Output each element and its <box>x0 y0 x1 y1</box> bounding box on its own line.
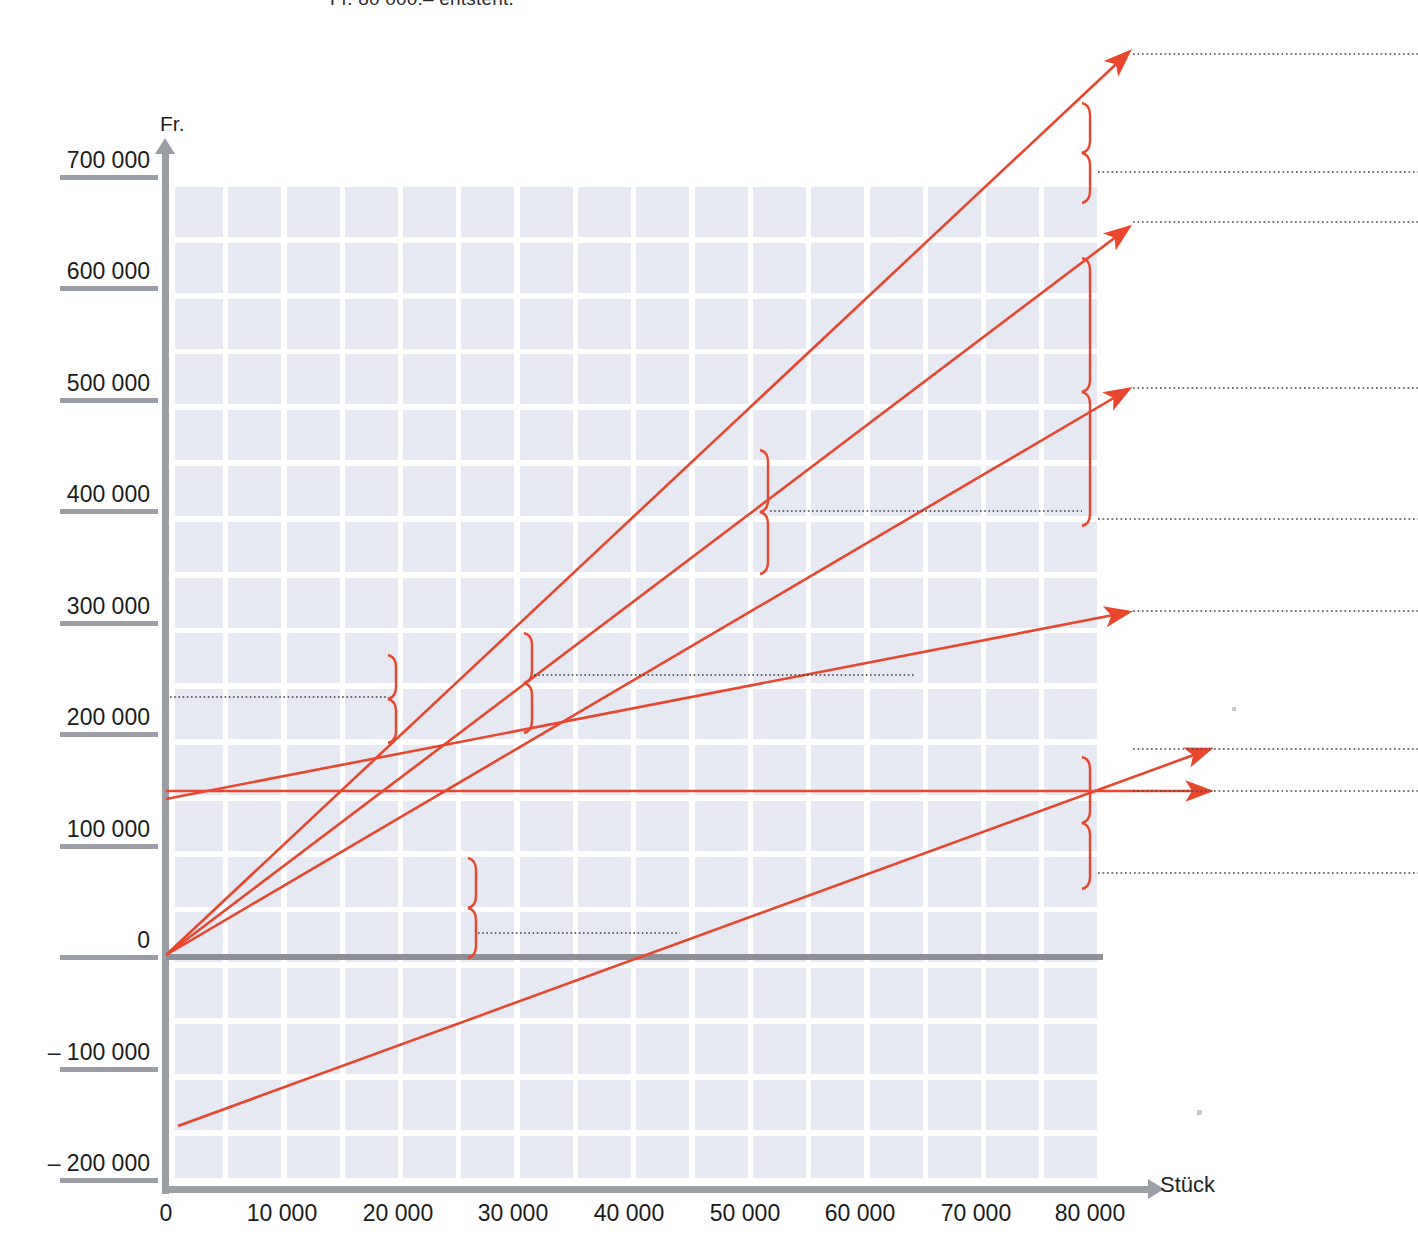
brace-30000 <box>524 633 532 733</box>
brace-right-middle <box>1082 258 1090 526</box>
series-line-gewinn <box>178 749 1210 1126</box>
brace-26000 <box>468 858 476 958</box>
scan-speck <box>1197 1110 1202 1115</box>
brace-right-top <box>1082 103 1090 203</box>
brace-right-lower <box>1082 757 1090 889</box>
series-line-gesamtkosten <box>166 612 1129 799</box>
series-line-ertrag-hoch <box>166 52 1129 955</box>
scan-speck <box>1232 707 1236 711</box>
brace-50000 <box>760 450 768 574</box>
series-line-ertrag-tief <box>166 227 1129 955</box>
chart-page: Fr. 80 000.– entsteht. Fr. Stück 700 000… <box>0 0 1418 1260</box>
brace-20000 <box>388 655 396 743</box>
series-line-variable-kosten <box>166 389 1129 955</box>
chart-overlay <box>0 0 1418 1260</box>
